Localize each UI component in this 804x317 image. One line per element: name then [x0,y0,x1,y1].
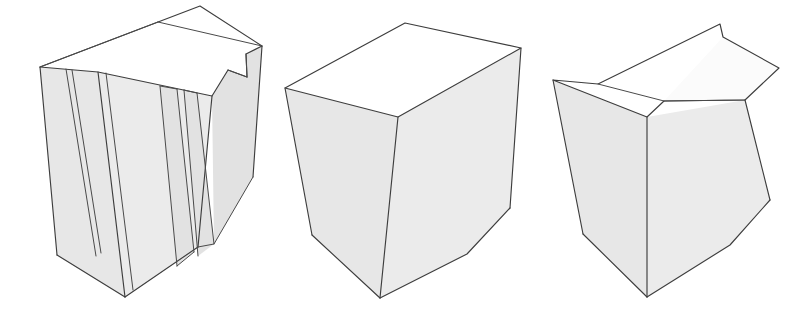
figure-3-chamfered-top-block [553,24,779,297]
figure-3-left-face [553,80,647,297]
figure-3-right-face [647,100,770,297]
three-blocks-illustration [0,0,804,317]
figure-1-slotted-notched-block [40,6,262,297]
figure-2-plain-rectangular-block [285,23,521,298]
figure-canvas [0,0,804,317]
figure-2-left-face [285,88,398,298]
